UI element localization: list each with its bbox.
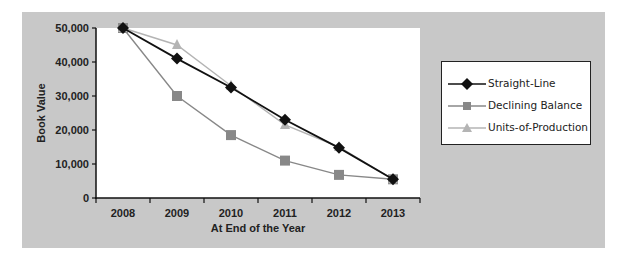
x-tick-label: 2010 xyxy=(219,207,243,219)
x-tick-label: 2009 xyxy=(165,207,189,219)
x-axis-title: At End of the Year xyxy=(211,222,306,234)
square-marker-icon xyxy=(280,156,290,166)
x-tick-label: 2013 xyxy=(381,207,405,219)
x-tick-label: 2012 xyxy=(327,207,351,219)
x-tick-label: 2011 xyxy=(273,207,297,219)
square-marker-icon xyxy=(226,130,236,140)
y-tick-label: 20,000 xyxy=(55,124,89,136)
square-marker-icon xyxy=(448,96,488,116)
legend-label: Straight-Line xyxy=(488,77,556,89)
triangle-marker-icon xyxy=(448,118,488,138)
y-tick-label: 0 xyxy=(83,192,89,204)
y-tick-label: 50,000 xyxy=(55,22,89,34)
legend-item-straight-line: Straight-Line xyxy=(442,74,590,94)
legend-item-units-of-production: Units-of-Production xyxy=(442,118,590,138)
y-axis-title: Book Value xyxy=(35,83,47,142)
diamond-marker-icon xyxy=(448,74,488,94)
square-marker-icon xyxy=(172,91,182,101)
x-tick-label: 2008 xyxy=(111,207,135,219)
plot-area xyxy=(96,28,420,198)
square-marker-icon xyxy=(334,170,344,180)
y-tick-label: 10,000 xyxy=(55,158,89,170)
legend-label: Units-of-Production xyxy=(488,121,588,133)
legend-item-declining-balance: Declining Balance xyxy=(442,96,590,116)
y-tick-label: 30,000 xyxy=(55,90,89,102)
legend-label: Declining Balance xyxy=(488,99,582,111)
y-tick-label: 40,000 xyxy=(55,56,89,68)
legend: Straight-Line Declining Balance Units-of… xyxy=(441,61,591,145)
